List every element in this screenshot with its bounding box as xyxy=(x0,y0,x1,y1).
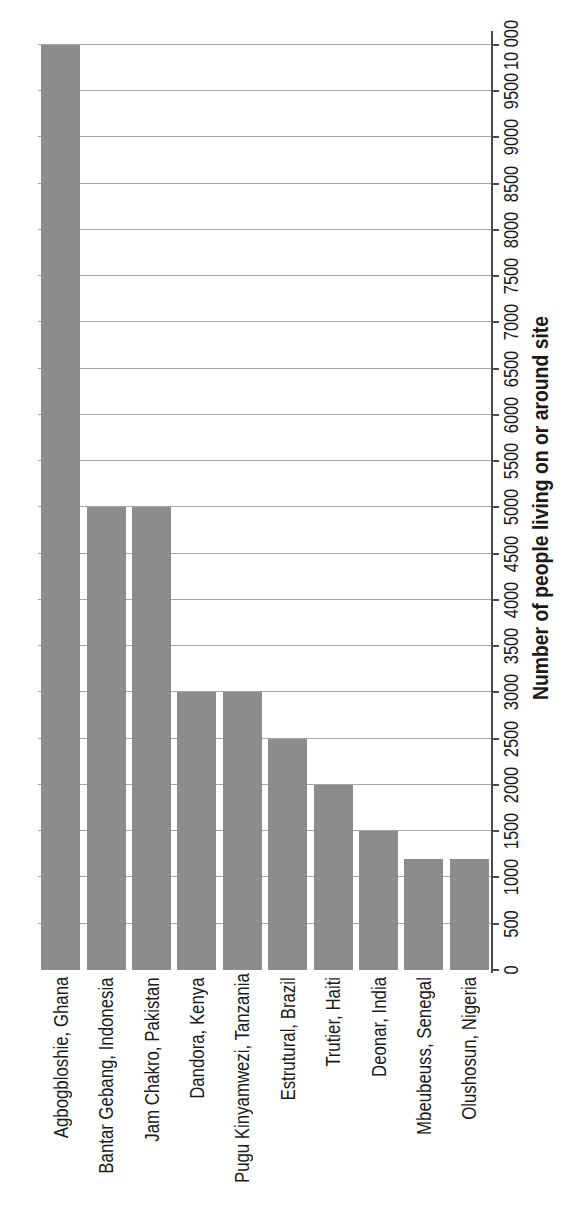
category-label-text: Jam Chakro, Pakistan xyxy=(141,977,163,1141)
tick-label-6000: 6000 xyxy=(500,397,522,433)
tick-label-1000: 1000 xyxy=(500,859,522,895)
tick-mark-9500 xyxy=(491,90,499,92)
tick-mark-6500 xyxy=(491,368,499,370)
tick-label-500: 500 xyxy=(500,910,522,937)
category-label-text: Estrutural, Brazil xyxy=(277,977,299,1100)
tick-mark-2500 xyxy=(491,738,499,740)
bar-dandora-kenya xyxy=(177,693,216,971)
tick-mark-8500 xyxy=(491,183,499,185)
category-label-olushosun-nigeria: Olushosun, Nigeria xyxy=(458,977,480,1223)
plot-area xyxy=(38,45,492,970)
tick-mark-4500 xyxy=(491,553,499,555)
category-label-mbeubeuss-senegal: Mbeubeuss, Senegal xyxy=(413,977,435,1223)
gridline-5500 xyxy=(38,460,492,461)
category-label-text: Agbogbloshie, Ghana xyxy=(50,977,72,1139)
bar-deonar-india xyxy=(359,831,398,970)
gridline-10000 xyxy=(38,44,492,45)
gridline-7000 xyxy=(38,322,492,323)
tick-mark-4000 xyxy=(491,599,499,601)
tick-label-4500: 4500 xyxy=(500,536,522,572)
tick-label-5000: 5000 xyxy=(500,489,522,525)
tick-label-7000: 7000 xyxy=(500,304,522,340)
tick-mark-7500 xyxy=(491,275,499,277)
bar-estrutural-brazil xyxy=(268,739,307,970)
gridline-8000 xyxy=(38,229,492,230)
tick-label-4000: 4000 xyxy=(500,582,522,618)
tick-label-6500: 6500 xyxy=(500,351,522,387)
category-label-trutier-haiti: Trutier, Haiti xyxy=(322,977,344,1223)
bar-jam-chakro-pakistan xyxy=(132,508,171,971)
tick-label-8000: 8000 xyxy=(500,212,522,248)
category-label-text: Mbeubeuss, Senegal xyxy=(413,977,435,1135)
gridline-8500 xyxy=(38,183,492,184)
tick-label-3000: 3000 xyxy=(500,674,522,710)
tick-mark-500 xyxy=(491,923,499,925)
category-label-text: Bantar Gebang, Indonesia xyxy=(95,977,117,1173)
tick-label-3500: 3500 xyxy=(500,628,522,664)
category-label-dandora-kenya: Dandora, Kenya xyxy=(186,977,208,1223)
tick-mark-3500 xyxy=(491,645,499,647)
bar-agbogbloshie-ghana xyxy=(41,45,80,970)
bar-pugu-kinyamwezi-tanzania xyxy=(223,693,262,971)
tick-mark-9000 xyxy=(491,137,499,139)
tick-label-2500: 2500 xyxy=(500,721,522,757)
gridline-7500 xyxy=(38,275,492,276)
tick-label-0: 0 xyxy=(500,965,522,974)
category-label-text: Olushosun, Nigeria xyxy=(458,977,480,1120)
rotated-bar-chart: Agbogbloshie, GhanaBantar Gebang, Indone… xyxy=(0,0,573,1223)
bar-mbeubeuss-senegal xyxy=(404,859,443,970)
tick-label-9500: 9500 xyxy=(500,73,522,109)
tick-label-2000: 2000 xyxy=(500,767,522,803)
tick-mark-2000 xyxy=(491,784,499,786)
gridline-6000 xyxy=(38,414,492,415)
value-axis-title: Number of people living on or around sit… xyxy=(529,316,553,700)
bar-olushosun-nigeria xyxy=(450,859,489,970)
tick-mark-5000 xyxy=(491,507,499,509)
tick-mark-1000 xyxy=(491,877,499,879)
tick-label-9000: 9000 xyxy=(500,119,522,155)
tick-mark-0 xyxy=(491,969,499,971)
tick-mark-8000 xyxy=(491,229,499,231)
tick-mark-7000 xyxy=(491,322,499,324)
tick-label-5500: 5500 xyxy=(500,443,522,479)
category-label-bantar-gebang-indonesia: Bantar Gebang, Indonesia xyxy=(95,977,117,1223)
scanned-page: Agbogbloshie, GhanaBantar Gebang, Indone… xyxy=(0,0,573,1223)
gridline-6500 xyxy=(38,368,492,369)
gridline-9000 xyxy=(38,137,492,138)
tick-mark-1500 xyxy=(491,830,499,832)
category-label-jam-chakro-pakistan: Jam Chakro, Pakistan xyxy=(141,977,163,1223)
category-label-estrutural-brazil: Estrutural, Brazil xyxy=(277,977,299,1223)
tick-label-8500: 8500 xyxy=(500,166,522,202)
category-label-text: Deonar, India xyxy=(368,977,390,1077)
bar-bantar-gebang-indonesia xyxy=(87,508,126,971)
tick-mark-3000 xyxy=(491,692,499,694)
category-label-agbogbloshie-ghana: Agbogbloshie, Ghana xyxy=(50,977,72,1223)
category-label-text: Trutier, Haiti xyxy=(322,977,344,1067)
tick-label-7500: 7500 xyxy=(500,258,522,294)
category-label-deonar-india: Deonar, India xyxy=(368,977,390,1223)
tick-mark-10000 xyxy=(491,44,499,46)
category-label-text: Pugu Kinyamwezi, Tanzania xyxy=(231,973,253,1183)
category-label-text: Dandora, Kenya xyxy=(186,977,208,1098)
tick-label-10000: 10 000 xyxy=(500,20,522,70)
tick-mark-6000 xyxy=(491,414,499,416)
category-label-pugu-kinyamwezi-tanzania: Pugu Kinyamwezi, Tanzania xyxy=(231,977,253,1223)
bar-trutier-haiti xyxy=(314,785,353,970)
tick-label-1500: 1500 xyxy=(500,813,522,849)
gridline-9500 xyxy=(38,90,492,91)
value-axis-title-text: Number of people living on or around sit… xyxy=(528,316,553,700)
tick-mark-5500 xyxy=(491,460,499,462)
